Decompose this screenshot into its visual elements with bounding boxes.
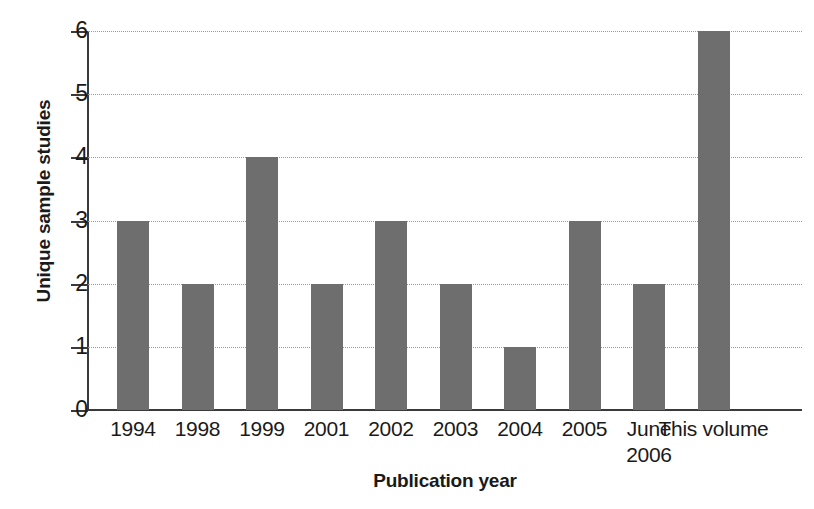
bar [569,221,601,411]
gridline [88,157,802,158]
bar [440,284,472,410]
bar [504,347,536,410]
x-axis-title: Publication year [88,470,802,492]
y-tick-label: 4 [46,145,88,168]
y-tick-label: 1 [46,335,88,358]
bar [375,221,407,411]
y-tick-label: 5 [46,82,88,105]
x-axis-tick-labels: 19941998199920012002200320042005June 200… [88,416,802,476]
plot-area [88,31,802,410]
bar [698,31,730,410]
y-tick-label: 6 [46,19,88,42]
y-tick-label: 2 [46,272,88,295]
bar [117,221,149,411]
bar-chart-figure: Unique sample studies 0123456 1994199819… [0,0,814,509]
bar [246,157,278,410]
bar [311,284,343,410]
y-tick-label: 3 [46,209,88,232]
clipped-caption-remnant [30,0,790,2]
x-tick-label: This volume [654,416,774,442]
bar [182,284,214,410]
gridline [88,31,802,32]
gridline [88,221,802,222]
bar [633,284,665,410]
gridline [88,94,802,95]
